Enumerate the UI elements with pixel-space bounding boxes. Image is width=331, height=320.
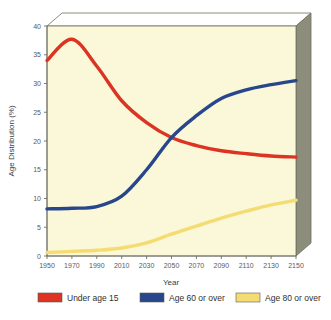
x-tick-label: 2030 <box>139 262 155 269</box>
x-tick-label: 2070 <box>189 262 205 269</box>
x-tick-label: 2050 <box>164 262 180 269</box>
y-tick-label: 5 <box>37 224 41 231</box>
y-tick-label: 25 <box>33 109 41 116</box>
legend-label: Age 60 or over <box>169 293 225 303</box>
legend-label: Age 80 or over <box>265 293 321 303</box>
y-axis-title: Age Distribution (%) <box>7 105 16 176</box>
x-tick-label: 2150 <box>288 262 304 269</box>
x-tick-label: 2010 <box>114 262 130 269</box>
y-axis-ticks: 0510152025303540 <box>33 23 47 260</box>
x-tick-label: 2090 <box>214 262 230 269</box>
legend-item[interactable]: Under age 15 <box>38 293 119 303</box>
legend-item[interactable]: Age 80 or over <box>236 293 321 303</box>
chart-legend: Under age 15Age 60 or overAge 80 or over <box>38 293 321 303</box>
y-tick-label: 35 <box>33 51 41 58</box>
y-tick-label: 40 <box>33 23 41 30</box>
legend-swatch <box>236 293 260 302</box>
chart-container: 0510152025303540 19501970199020102030205… <box>0 0 331 320</box>
chart-right-wall <box>296 13 311 256</box>
y-tick-label: 0 <box>37 253 41 260</box>
chart-plot-area <box>47 26 296 256</box>
x-tick-label: 2130 <box>263 262 279 269</box>
x-axis-title: Year <box>163 278 180 287</box>
legend-swatch <box>140 293 164 302</box>
y-tick-label: 15 <box>33 166 41 173</box>
y-tick-label: 10 <box>33 195 41 202</box>
x-tick-label: 1950 <box>39 262 55 269</box>
y-tick-label: 20 <box>33 138 41 145</box>
legend-swatch <box>38 293 62 302</box>
x-tick-label: 1970 <box>64 262 80 269</box>
legend-item[interactable]: Age 60 or over <box>140 293 225 303</box>
chart-top-wall <box>47 13 311 26</box>
population-age-distribution-chart: 0510152025303540 19501970199020102030205… <box>0 0 331 320</box>
x-tick-label: 1990 <box>89 262 105 269</box>
legend-label: Under age 15 <box>67 293 119 303</box>
y-tick-label: 30 <box>33 80 41 87</box>
x-tick-label: 2110 <box>239 262 254 269</box>
x-axis-ticks: 1950197019902010203020502070209021102130… <box>39 256 304 269</box>
